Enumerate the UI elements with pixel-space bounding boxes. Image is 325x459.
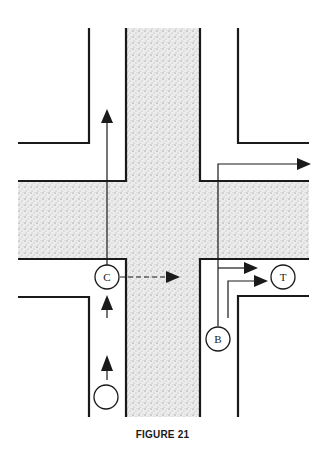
path-b-mid-right bbox=[218, 262, 258, 274]
vehicle-b-label: B bbox=[214, 333, 221, 345]
figure-caption: FIGURE 21 bbox=[0, 429, 325, 440]
vehicle-c-label: C bbox=[103, 271, 110, 283]
vehicle-t: T bbox=[271, 265, 295, 289]
vehicle-b: B bbox=[206, 327, 230, 351]
path-approach-c bbox=[101, 295, 113, 380]
vehicle-t-label: T bbox=[280, 271, 287, 283]
intersection-diagram: C T B bbox=[0, 0, 325, 459]
median-shading bbox=[18, 28, 309, 417]
vehicle-unlabeled bbox=[94, 385, 118, 409]
vehicle-c: C bbox=[95, 265, 119, 289]
